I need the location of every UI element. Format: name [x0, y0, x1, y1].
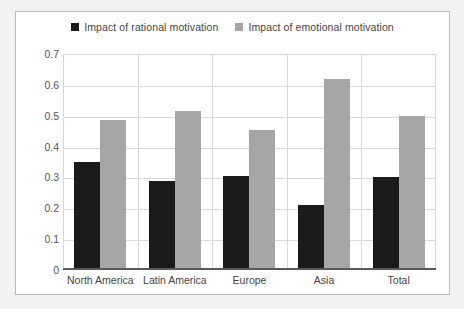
legend-label-rational: Impact of rational motivation	[84, 21, 218, 33]
y-axis-tick-label: 0.2	[19, 202, 59, 214]
chart-legend: Impact of rational motivation Impact of …	[16, 21, 449, 33]
bar-group	[287, 54, 362, 270]
bar[interactable]	[149, 181, 175, 270]
y-axis-tick-label: 0	[19, 264, 59, 276]
x-axis-tick-label: Europe	[212, 274, 287, 286]
bar[interactable]	[324, 79, 350, 270]
y-axis: 0.70.60.50.40.30.20.10	[16, 54, 59, 270]
chart-container: Impact of rational motivation Impact of …	[15, 11, 450, 295]
legend-item-emotional[interactable]: Impact of emotional motivation	[235, 21, 393, 33]
bar-group	[63, 54, 138, 270]
x-axis-tick-label: Latin America	[138, 274, 213, 286]
bar[interactable]	[399, 116, 425, 270]
y-axis-tick-label: 0.5	[19, 110, 59, 122]
bar-group	[212, 54, 287, 270]
bar-group	[361, 54, 436, 270]
bar-group	[138, 54, 213, 270]
y-axis-tick-label: 0.1	[19, 233, 59, 245]
bar[interactable]	[100, 120, 126, 270]
legend-swatch-emotional-icon	[235, 23, 243, 31]
x-axis-line	[63, 268, 436, 270]
x-axis-labels: North AmericaLatin AmericaEuropeAsiaTota…	[63, 274, 436, 286]
x-axis-tick-label: Asia	[287, 274, 362, 286]
x-axis-tick-label: Total	[361, 274, 436, 286]
y-axis-tick-label: 0.3	[19, 171, 59, 183]
x-axis-tick-label: North America	[63, 274, 138, 286]
legend-swatch-rational-icon	[71, 23, 79, 31]
y-axis-tick-label: 0.6	[19, 79, 59, 91]
y-axis-tick-label: 0.7	[19, 48, 59, 60]
bar[interactable]	[373, 177, 399, 270]
bar[interactable]	[223, 176, 249, 270]
legend-label-emotional: Impact of emotional motivation	[248, 21, 393, 33]
bar[interactable]	[249, 130, 275, 270]
bar[interactable]	[74, 162, 100, 270]
plot-area-wrapper	[63, 54, 436, 270]
legend-item-rational[interactable]: Impact of rational motivation	[71, 21, 218, 33]
bar[interactable]	[175, 111, 201, 270]
bar[interactable]	[298, 205, 324, 270]
y-axis-tick-label: 0.4	[19, 141, 59, 153]
bar-groups	[63, 54, 436, 270]
